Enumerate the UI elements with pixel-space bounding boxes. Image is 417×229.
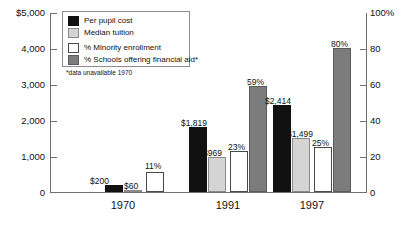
bar-label-1991-median-tuition: $969 xyxy=(203,149,222,158)
bar-1997-median-tuition xyxy=(292,138,310,192)
right-axis-label-20: 20 xyxy=(370,152,381,162)
bar-1970-per-pupil-cost xyxy=(105,185,123,192)
left-axis-label-3000: 3,000 xyxy=(21,80,45,90)
right-axis-tick xyxy=(360,49,366,50)
left-axis-tick xyxy=(51,85,57,86)
legend-label-minority-enrollment: % Minority enrollment xyxy=(84,43,161,53)
white-swatch-icon xyxy=(68,43,79,53)
right-axis-label-80: 80 xyxy=(370,44,381,54)
bar-1997-financial-aid xyxy=(333,48,351,192)
right-axis-tick xyxy=(360,157,366,158)
black-swatch-icon xyxy=(68,16,79,26)
left-axis-tick xyxy=(51,13,57,14)
right-y-axis-line xyxy=(366,13,367,193)
dark-gray-swatch-icon xyxy=(68,55,79,65)
bar-label-1991-per-pupil-cost: $1,819 xyxy=(181,119,207,128)
x-axis-line xyxy=(50,192,367,193)
bar-1991-per-pupil-cost xyxy=(189,127,207,192)
bar-label-1970-minority-enrollment: 11% xyxy=(145,162,161,171)
right-axis-tick xyxy=(360,121,366,122)
right-axis-label-60: 60 xyxy=(370,80,381,90)
left-axis-label-2000: 2,000 xyxy=(21,116,45,126)
legend-footnote: *data unavailable 1970 xyxy=(66,69,132,77)
legend-label-per-pupil-cost: Per pupil cost xyxy=(84,16,132,26)
right-axis-label-100: 100% xyxy=(370,8,394,18)
bar-1997-minority-enrollment xyxy=(314,147,332,192)
right-axis-tick xyxy=(360,85,366,86)
bar-label-1970-median-tuition: $60 xyxy=(124,182,138,191)
bar-label-1991-minority-enrollment: 23% xyxy=(228,143,245,152)
left-axis-tick xyxy=(51,121,57,122)
x-axis-category-1970: 1970 xyxy=(75,199,171,211)
left-axis-label-4000: 4,000 xyxy=(21,44,45,54)
bar-label-1997-per-pupil-cost: $2,414 xyxy=(265,97,291,106)
left-axis-label-5000: $5,000 xyxy=(16,8,45,18)
light-gray-swatch-icon xyxy=(68,28,79,38)
x-axis-category-1997: 1997 xyxy=(264,199,360,211)
legend-label-median-tuition: Median tuition xyxy=(84,28,134,38)
bar-label-1991-financial-aid: 59% xyxy=(247,78,264,87)
bar-label-1997-median-tuition: $1,499 xyxy=(287,130,313,139)
bar-label-1997-financial-aid: 80% xyxy=(331,40,348,49)
grouped-bar-chart: $5,000 4,000 3,000 2,000 1,000 0 100% 80… xyxy=(0,0,417,229)
x-axis-category-1991: 1991 xyxy=(180,199,276,211)
bar-1991-median-tuition xyxy=(208,157,226,192)
chart-legend: Per pupil cost Median tuition % Minority… xyxy=(62,11,190,67)
legend-label-financial-aid: % Schools offering financial aid* xyxy=(84,55,198,65)
bar-1997-per-pupil-cost xyxy=(273,105,291,192)
left-axis-tick xyxy=(51,157,57,158)
bar-label-1970-per-pupil-cost: $200 xyxy=(90,177,109,186)
left-axis-label-0: 0 xyxy=(40,188,45,198)
left-y-axis-line xyxy=(50,13,51,193)
left-axis-label-1000: 1,000 xyxy=(21,152,45,162)
bar-1991-minority-enrollment xyxy=(230,151,248,192)
bar-label-1997-minority-enrollment: 25% xyxy=(312,139,329,148)
left-axis-tick xyxy=(51,49,57,50)
bar-1970-minority-enrollment xyxy=(146,172,164,192)
right-axis-label-40: 40 xyxy=(370,116,381,126)
right-axis-label-0: 0 xyxy=(370,188,375,198)
